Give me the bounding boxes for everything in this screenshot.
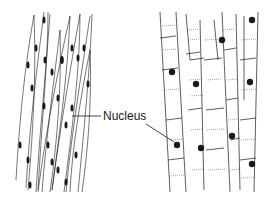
smooth-muscle-tissue [16, 12, 92, 192]
striations [162, 25, 256, 178]
diagram-drawing [0, 0, 272, 202]
nucleus-label: Nucleus [103, 109, 146, 123]
striated-muscle-nuclei [169, 17, 255, 167]
striated-muscle-tissue [160, 12, 258, 192]
muscle-tissue-diagram: Nucleus [0, 0, 272, 202]
